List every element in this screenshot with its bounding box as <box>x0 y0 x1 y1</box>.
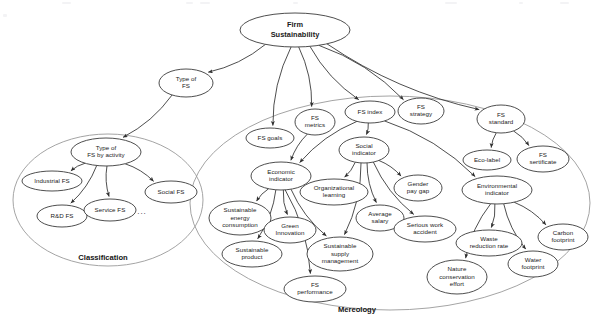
edge-fs-index-to-environmental-indicator <box>385 121 476 177</box>
node-label-fs-index: FS index <box>358 108 384 115</box>
ontology-diagram: FirmSustainabilityType ofFSType ofFS by … <box>0 0 598 335</box>
node-fs-sertificate[interactable]: FSsertificate <box>517 146 569 172</box>
node-label-sustainable-supply-management: supply <box>331 250 350 257</box>
node-fs-strategy[interactable]: FSstrategy <box>398 98 444 124</box>
node-label-sustainable-supply-management: Sustainable <box>324 242 357 249</box>
edge-firm-sustainability-to-fs-goals <box>273 47 291 126</box>
node-label-firm-sustainability: Sustainability <box>271 30 321 39</box>
node-label-average-salary: Average <box>368 210 392 217</box>
node-label-fs-metrics: FS <box>311 114 319 121</box>
node-organizational-learning[interactable]: Organizationallearning <box>300 179 368 205</box>
edge-fs-standard-to-eco-label <box>491 133 496 148</box>
node-label-rd-fs: R&D FS <box>51 212 74 219</box>
node-label-sustainable-energy-consumption: consumption <box>222 221 258 228</box>
node-social-fs[interactable]: Social FS <box>145 181 197 203</box>
edge-firm-sustainability-to-type-of-fs <box>208 44 265 72</box>
node-firm-sustainability[interactable]: FirmSustainability <box>240 13 350 47</box>
node-fs-standard[interactable]: FSstandard <box>477 105 525 133</box>
node-label-organizational-learning: learning <box>323 191 346 198</box>
node-rd-fs[interactable]: R&D FS <box>37 205 87 227</box>
node-label-gender-pay-gap: Gender <box>408 180 429 187</box>
node-label-social-indicator: Social <box>355 142 372 149</box>
node-label-fs-strategy: strategy <box>410 110 433 117</box>
node-label-fs-metrics: metrics <box>305 121 325 128</box>
node-sustainable-supply-management[interactable]: Sustainablesupplymanagement <box>307 237 373 271</box>
node-fs-metrics[interactable]: FSmetrics <box>295 109 335 135</box>
node-label-carbon-footprint: Carbon <box>553 229 574 236</box>
edge-social-indicator-to-average-salary <box>367 163 376 203</box>
node-label-sustainable-energy-consumption: Sustainable <box>224 206 257 213</box>
edge-social-indicator-to-organizational-learning <box>345 162 356 177</box>
edge-economic-indicator-to-green-innovation <box>283 190 287 215</box>
node-label-fs-standard: standard <box>489 118 514 125</box>
node-label-waste-reduction-rate: Waste <box>480 235 498 242</box>
node-service-fs[interactable]: Service FS <box>84 199 136 221</box>
edge-social-indicator-to-gender-pay-gap <box>379 160 401 176</box>
node-sustainable-product[interactable]: Sustainableproduct <box>222 241 282 267</box>
edge-type-of-fs-by-activity-to-social-fs <box>125 164 154 182</box>
node-label-economic-indicator: indicator <box>269 175 293 182</box>
node-environmental-indicator[interactable]: Environmentalindicator <box>462 176 532 204</box>
node-type-of-fs[interactable]: Type ofFS <box>159 69 213 97</box>
edge-firm-sustainability-to-fs-metrics <box>299 47 312 107</box>
node-type-of-fs-by-activity[interactable]: Type ofFS by activity <box>71 138 141 166</box>
edge-type-of-fs-by-activity-to-service-fs <box>106 166 109 197</box>
edge-firm-sustainability-to-fs-strategy <box>319 45 404 99</box>
node-label-average-salary: salary <box>372 217 390 224</box>
node-fs-index[interactable]: FS index <box>345 101 395 123</box>
node-label-sustainable-product: product <box>242 253 263 260</box>
node-eco-label[interactable]: Eco-label <box>463 150 511 170</box>
node-label-type-of-fs-by-activity: Type of <box>96 144 117 151</box>
edge-economic-indicator-to-sustainable-energy-consumption <box>257 189 269 201</box>
node-green-innovation[interactable]: GreenInnovation <box>264 217 316 243</box>
edge-fs-standard-to-fs-sertificate <box>514 131 529 146</box>
diagram-canvas: FirmSustainabilityType ofFSType ofFS by … <box>0 0 598 335</box>
edge-environmental-indicator-to-carbon-footprint <box>514 202 546 225</box>
node-social-indicator[interactable]: Socialindicator <box>339 137 389 163</box>
node-label-water-footprint: Water <box>525 256 542 263</box>
node-label-sustainable-energy-consumption: energy <box>230 214 250 221</box>
node-label-service-fs: Service FS <box>95 206 126 213</box>
node-serious-work-accident[interactable]: Serious workaccident <box>394 216 456 242</box>
node-label-social-indicator: indicator <box>352 149 376 156</box>
classification-group-label: Classification <box>78 253 128 262</box>
node-label-serious-work-accident: accident <box>413 228 437 235</box>
node-sustainable-energy-consumption[interactable]: Sustainableenergyconsumption <box>209 201 271 235</box>
node-label-waste-reduction-rate: reduction rate <box>470 242 509 249</box>
mereology-group-label: Mereology <box>338 305 377 314</box>
node-label-fs-goals: FS goals <box>258 134 283 141</box>
node-label-sustainable-product: Sustainable <box>236 246 269 253</box>
node-water-footprint[interactable]: Waterfootprint <box>508 251 558 277</box>
edge-environmental-indicator-to-waste-reduction-rate <box>491 204 495 228</box>
node-gender-pay-gap[interactable]: Genderpay gap <box>394 175 442 201</box>
node-label-green-innovation: Innovation <box>275 229 305 236</box>
node-economic-indicator[interactable]: Economicindicator <box>251 162 311 190</box>
node-label-environmental-indicator: Environmental <box>477 182 517 189</box>
node-carbon-footprint[interactable]: Carbonfootprint <box>538 224 588 250</box>
node-waste-reduction-rate[interactable]: Wastereduction rate <box>456 230 522 256</box>
node-label-sustainable-supply-management: management <box>322 257 359 264</box>
node-label-fs-strategy: FS <box>417 103 425 110</box>
edge-type-of-fs-by-activity-to-industrial-fs <box>71 163 85 171</box>
node-label-fs-sertificate: sertificate <box>529 158 557 165</box>
node-nature-conservation-effort[interactable]: Natureconservationeffort <box>427 260 487 294</box>
node-label-social-fs: Social FS <box>158 188 185 195</box>
node-label-gender-pay-gap: pay gap <box>407 187 430 194</box>
classification-ellipsis-label: ... <box>137 207 147 216</box>
node-label-organizational-learning: Organizational <box>314 184 355 191</box>
edge-firm-sustainability-to-fs-index <box>310 46 359 99</box>
node-fs-goals[interactable]: FS goals <box>246 128 294 148</box>
node-label-industrial-fs: Industrial FS <box>34 177 69 184</box>
node-label-carbon-footprint: footprint <box>552 236 575 243</box>
node-fs-performance[interactable]: FSperformance <box>284 276 346 302</box>
node-label-firm-sustainability: Firm <box>287 20 304 29</box>
node-label-fs-performance: performance <box>297 288 333 295</box>
node-label-water-footprint: footprint <box>522 263 545 270</box>
node-industrial-fs[interactable]: Industrial FS <box>22 171 82 191</box>
node-label-nature-conservation-effort: conservation <box>439 273 475 280</box>
node-label-eco-label: Eco-label <box>474 156 500 163</box>
node-label-fs-sertificate: FS <box>539 151 547 158</box>
node-label-economic-indicator: Economic <box>267 168 295 175</box>
node-label-nature-conservation-effort: Nature <box>448 265 467 272</box>
edge-type-of-fs-to-type-of-fs-by-activity <box>123 95 172 137</box>
